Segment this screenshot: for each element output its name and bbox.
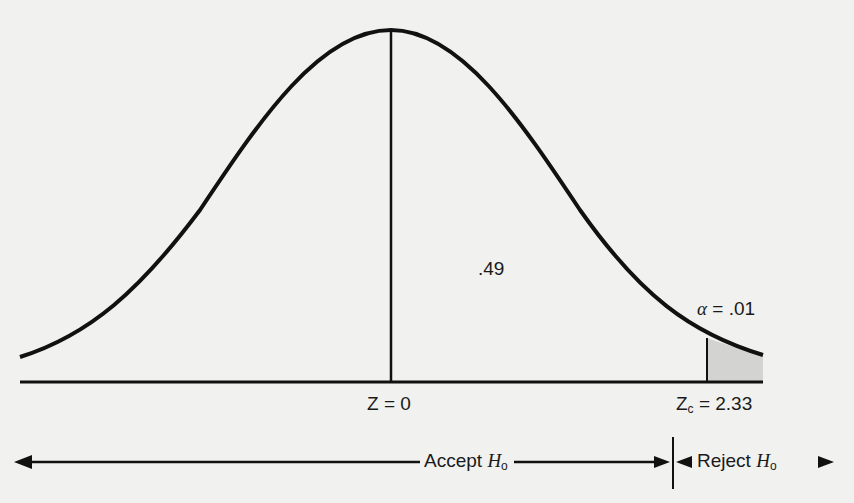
hypothesis-sub: o [501, 459, 508, 473]
accept-region-label: Accept Ho [424, 450, 508, 473]
center-z-label: Z = 0 [367, 393, 411, 415]
area-label: .49 [478, 258, 504, 280]
hypothesis-var: H [487, 450, 501, 471]
arrowhead-reject-right [818, 456, 834, 468]
arrowhead-reject-left [676, 456, 692, 468]
alpha-value: = .01 [707, 298, 755, 319]
arrowhead-accept-right [654, 456, 670, 468]
accept-text: Accept [424, 450, 487, 471]
critical-z-value: = 2.33 [694, 393, 753, 414]
critical-z-var: Z [676, 393, 688, 414]
alpha-label: α = .01 [697, 298, 755, 320]
hypothesis-var: H [756, 450, 770, 471]
reject-region-label: Reject Ho [697, 450, 777, 473]
hypothesis-sub: o [770, 459, 777, 473]
critical-z-label: Zc = 2.33 [676, 393, 752, 416]
normal-curve-chart [0, 0, 854, 503]
alpha-symbol: α [697, 298, 707, 319]
reject-text: Reject [697, 450, 756, 471]
arrowhead-left [14, 455, 32, 469]
